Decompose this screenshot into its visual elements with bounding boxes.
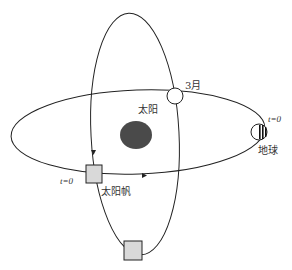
earth-march-icon — [167, 88, 183, 104]
march-label: 3月 — [185, 81, 201, 91]
sail-t0-icon — [86, 165, 102, 183]
earth-t0-label: t=0 — [268, 115, 281, 124]
orbit-diagram — [0, 0, 292, 270]
sun-icon — [120, 121, 152, 149]
sail-t0-label: t=0 — [60, 177, 73, 186]
earth-label: 地球 — [258, 146, 278, 156]
arrow-down-icon — [91, 150, 96, 155]
sun-label: 太阳 — [138, 105, 158, 115]
earth-t0-icon — [251, 124, 267, 140]
sail-bottom-icon — [124, 241, 142, 260]
solar-sail-label: 太阳帆 — [101, 187, 131, 197]
